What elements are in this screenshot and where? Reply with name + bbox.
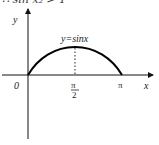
sine-graph: y x 0 y=sinx π 2 π <box>0 0 159 145</box>
y-axis-label: y <box>12 14 18 25</box>
function-label: y=sinx <box>60 33 89 44</box>
origin-label: 0 <box>14 80 19 91</box>
sine-curve <box>28 47 122 75</box>
tick-pi-label: π <box>118 80 123 90</box>
x-axis-label: x <box>143 80 149 91</box>
tick-half-pi-denominator: 2 <box>72 90 77 100</box>
tick-half-pi-numerator: π <box>71 80 76 90</box>
